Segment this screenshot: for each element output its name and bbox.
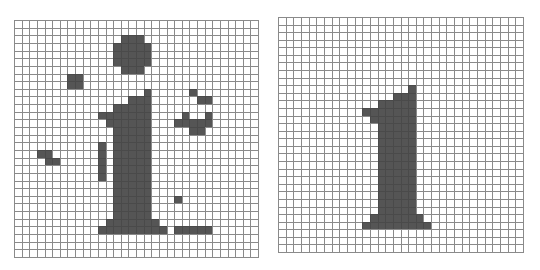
empty-pixel [189, 135, 197, 143]
empty-pixel [316, 78, 324, 86]
empty-pixel [212, 173, 220, 181]
empty-pixel [286, 161, 294, 169]
empty-pixel [182, 142, 190, 150]
empty-pixel [370, 32, 378, 40]
empty-pixel [14, 43, 22, 51]
empty-pixel [469, 131, 477, 139]
empty-pixel [205, 127, 213, 135]
empty-pixel [220, 58, 228, 66]
empty-pixel [250, 173, 258, 181]
filled-pixel [408, 214, 416, 222]
empty-pixel [205, 173, 213, 181]
empty-pixel [332, 32, 340, 40]
empty-pixel [309, 237, 317, 245]
empty-pixel [362, 62, 370, 70]
empty-pixel [37, 226, 45, 234]
empty-pixel [37, 35, 45, 43]
empty-pixel [106, 135, 114, 143]
empty-pixel [83, 219, 91, 227]
empty-pixel [431, 78, 439, 86]
empty-pixel [469, 229, 477, 237]
filled-pixel [113, 196, 121, 204]
empty-pixel [316, 17, 324, 25]
empty-pixel [469, 17, 477, 25]
empty-pixel [235, 196, 243, 204]
empty-pixel [52, 165, 60, 173]
empty-pixel [439, 146, 447, 154]
empty-pixel [220, 104, 228, 112]
empty-pixel [22, 249, 30, 257]
empty-pixel [243, 203, 251, 211]
empty-pixel [462, 100, 470, 108]
empty-pixel [301, 176, 309, 184]
empty-pixel [52, 89, 60, 97]
filled-pixel [401, 214, 409, 222]
empty-pixel [151, 119, 159, 127]
empty-pixel [439, 32, 447, 40]
filled-pixel [144, 127, 152, 135]
empty-pixel [37, 203, 45, 211]
empty-pixel [378, 17, 386, 25]
empty-pixel [347, 108, 355, 116]
empty-pixel [301, 161, 309, 169]
empty-pixel [235, 165, 243, 173]
empty-pixel [121, 249, 129, 257]
empty-pixel [22, 28, 30, 36]
empty-pixel [67, 165, 75, 173]
empty-pixel [90, 119, 98, 127]
empty-pixel [37, 81, 45, 89]
empty-pixel [45, 81, 53, 89]
empty-pixel [90, 226, 98, 234]
empty-pixel [174, 242, 182, 250]
empty-pixel [339, 100, 347, 108]
empty-pixel [212, 219, 220, 227]
empty-pixel [60, 51, 68, 59]
empty-pixel [469, 169, 477, 177]
empty-pixel [205, 135, 213, 143]
empty-pixel [492, 176, 500, 184]
empty-pixel [370, 161, 378, 169]
empty-pixel [29, 181, 37, 189]
empty-pixel [439, 78, 447, 86]
empty-pixel [174, 142, 182, 150]
empty-pixel [286, 116, 294, 124]
empty-pixel [339, 229, 347, 237]
empty-pixel [75, 43, 83, 51]
empty-pixel [515, 116, 523, 124]
filled-pixel [385, 207, 393, 215]
filled-pixel [121, 112, 129, 120]
empty-pixel [60, 112, 68, 120]
empty-pixel [431, 32, 439, 40]
empty-pixel [416, 32, 424, 40]
empty-pixel [339, 191, 347, 199]
empty-pixel [174, 104, 182, 112]
empty-pixel [492, 214, 500, 222]
empty-pixel [189, 158, 197, 166]
empty-pixel [29, 188, 37, 196]
empty-pixel [324, 184, 332, 192]
filled-pixel [121, 35, 129, 43]
empty-pixel [324, 222, 332, 230]
empty-pixel [492, 55, 500, 63]
empty-pixel [378, 85, 386, 93]
empty-pixel [469, 70, 477, 78]
empty-pixel [469, 153, 477, 161]
empty-pixel [286, 100, 294, 108]
empty-pixel [339, 123, 347, 131]
empty-pixel [189, 234, 197, 242]
empty-pixel [393, 229, 401, 237]
empty-pixel [339, 47, 347, 55]
empty-pixel [508, 184, 516, 192]
empty-pixel [174, 66, 182, 74]
empty-pixel [83, 74, 91, 82]
empty-pixel [22, 165, 30, 173]
empty-pixel [228, 181, 236, 189]
empty-pixel [309, 108, 317, 116]
empty-pixel [205, 51, 213, 59]
empty-pixel [197, 81, 205, 89]
empty-pixel [90, 28, 98, 36]
empty-pixel [220, 188, 228, 196]
empty-pixel [75, 181, 83, 189]
empty-pixel [243, 196, 251, 204]
empty-pixel [355, 222, 363, 230]
